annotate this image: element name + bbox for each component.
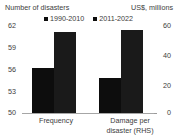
right-tick-60: 60: [157, 22, 171, 30]
legend-swatch-icon: [93, 17, 97, 21]
category-label-damage: Damage per disaster (RHS): [92, 116, 168, 135]
bar-frequency-1990-2010: [32, 68, 54, 113]
category-label-line1: Damage per: [92, 116, 168, 126]
bar-damage-1990-2010: [99, 78, 121, 113]
legend-swatch-icon: [44, 17, 48, 21]
right-tick-40: 40: [157, 52, 171, 60]
x-axis-baseline: [22, 113, 154, 114]
category-label-frequency: Frequency: [20, 116, 92, 126]
left-axis-title: Number of disasters: [5, 3, 69, 12]
left-tick-56: 56: [8, 66, 22, 74]
category-label-line1: Frequency: [20, 116, 92, 126]
category-label-line2: disaster (RHS): [92, 126, 168, 136]
bar-chart: Number of disasters US$, millions 1990-2…: [0, 0, 177, 139]
left-tick-53: 53: [8, 88, 22, 96]
left-tick-62: 62: [8, 22, 22, 30]
right-tick-20: 20: [157, 82, 171, 90]
left-tick-59: 59: [8, 44, 22, 52]
right-axis-title: US$, millions: [131, 3, 173, 12]
plot-area: [26, 22, 150, 113]
bar-frequency-2011-2022: [54, 32, 76, 113]
bar-damage-2011-2022: [121, 30, 143, 113]
